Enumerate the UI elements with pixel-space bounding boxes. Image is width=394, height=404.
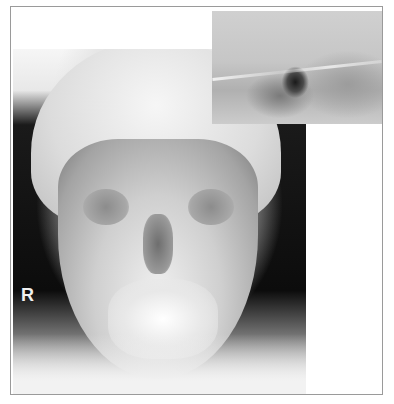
cropped-caption-fragment xyxy=(0,398,40,404)
side-marker-label: R xyxy=(21,286,34,304)
left-orbit xyxy=(83,189,129,225)
right-orbit xyxy=(188,189,234,225)
inset-bone-ridge xyxy=(212,60,381,81)
lower-fade xyxy=(13,334,306,394)
nasal-cavity xyxy=(143,214,173,274)
inset-xray-image xyxy=(212,11,382,124)
